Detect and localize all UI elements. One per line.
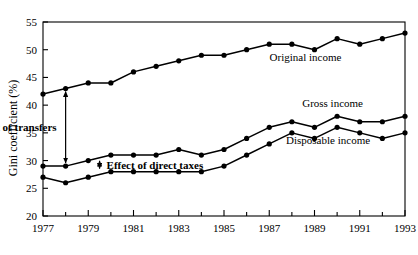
data-point — [289, 42, 294, 47]
data-point — [108, 80, 113, 85]
data-point — [221, 147, 226, 152]
data-point — [357, 42, 362, 47]
data-point — [289, 119, 294, 124]
x-tick-label: 1993 — [394, 222, 417, 234]
data-point — [131, 69, 136, 74]
x-tick-label: 1991 — [349, 222, 371, 234]
x-tick-label: 1983 — [168, 222, 191, 234]
data-point — [131, 152, 136, 157]
y-tick-label: 30 — [26, 155, 38, 167]
data-point — [221, 164, 226, 169]
data-point — [176, 58, 181, 63]
data-point — [40, 175, 45, 180]
data-point — [402, 30, 407, 35]
data-point — [335, 125, 340, 130]
y-tick-label: 20 — [26, 210, 38, 222]
data-point — [380, 136, 385, 141]
y-tick-label: 45 — [26, 71, 38, 83]
data-point — [244, 136, 249, 141]
data-point — [221, 53, 226, 58]
data-point — [199, 152, 204, 157]
data-point — [335, 114, 340, 119]
x-tick-label: 1985 — [213, 222, 236, 234]
data-point — [267, 141, 272, 146]
data-point — [244, 152, 249, 157]
data-point — [176, 147, 181, 152]
chart-background — [0, 0, 418, 255]
x-tick-label: 1977 — [32, 222, 55, 234]
y-tick-label: 55 — [26, 16, 38, 28]
data-point — [380, 36, 385, 41]
series-label-original-income: Original income — [270, 51, 342, 63]
y-tick-label: 40 — [26, 99, 38, 111]
x-tick-label: 1979 — [77, 222, 100, 234]
data-point — [267, 125, 272, 130]
series-label-disposable-income: Disposable income — [286, 134, 370, 146]
chart-canvas: 2025303540455055 19771979198119831985198… — [0, 0, 418, 255]
data-point — [357, 119, 362, 124]
y-tick-label: 50 — [26, 44, 38, 56]
data-point — [199, 53, 204, 58]
data-point — [40, 91, 45, 96]
data-point — [380, 119, 385, 124]
y-tick-label: 25 — [26, 182, 38, 194]
x-axis-tick-labels: 197719791981198319851987198919911993 — [32, 222, 417, 234]
annotation-label: Effect of transfers — [0, 121, 57, 133]
x-tick-label: 1981 — [123, 222, 145, 234]
data-point — [86, 175, 91, 180]
x-tick-label: 1987 — [258, 222, 281, 234]
data-point — [154, 152, 159, 157]
data-point — [335, 36, 340, 41]
series-label-gross-income: Gross income — [302, 97, 363, 109]
data-point — [267, 42, 272, 47]
data-point — [402, 130, 407, 135]
x-tick-label: 1989 — [304, 222, 327, 234]
data-point — [154, 64, 159, 69]
data-point — [63, 86, 68, 91]
data-point — [86, 158, 91, 163]
data-point — [63, 180, 68, 185]
data-point — [244, 47, 249, 52]
data-point — [108, 152, 113, 157]
gini-coefficient-line-chart: 2025303540455055 19771979198119831985198… — [0, 0, 418, 255]
data-point — [312, 125, 317, 130]
data-point — [63, 164, 68, 169]
annotation-label: Effect of direct taxes — [107, 159, 204, 171]
data-point — [86, 80, 91, 85]
data-point — [40, 164, 45, 169]
data-point — [402, 114, 407, 119]
